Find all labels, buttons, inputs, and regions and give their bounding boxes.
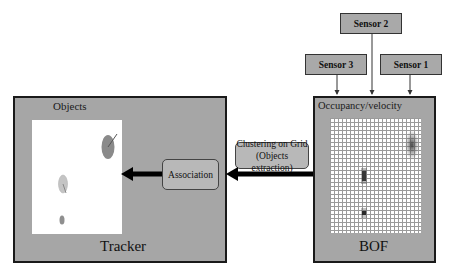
flow-arrows <box>0 0 451 273</box>
arrow-head-icon <box>121 167 133 181</box>
arrow-head-icon <box>226 167 238 181</box>
